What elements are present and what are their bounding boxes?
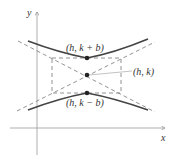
- hyperbola-diagram: x y (h, k + b) (h, k) (h, k − b): [0, 0, 171, 161]
- lower-vertex-label: (h, k − b): [66, 97, 105, 109]
- upper-vertex-point: [85, 56, 90, 61]
- x-axis-label: x: [160, 132, 166, 143]
- lower-vertex-point: [85, 91, 90, 96]
- center-point: [85, 73, 90, 78]
- upper-vertex-label: (h, k + b): [66, 42, 105, 54]
- y-axis-label: y: [26, 7, 32, 18]
- center-label: (h, k): [133, 66, 155, 78]
